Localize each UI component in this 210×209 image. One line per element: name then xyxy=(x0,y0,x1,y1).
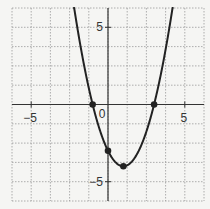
axes xyxy=(12,8,204,201)
x-tick-label: −5 xyxy=(23,111,37,125)
marked-point xyxy=(151,101,158,108)
origin-label: 0 xyxy=(99,107,106,121)
x-tick-label: 5 xyxy=(180,111,187,125)
y-tick-label: −5 xyxy=(89,175,103,189)
marked-point xyxy=(89,101,96,108)
parabola-curve xyxy=(73,8,173,166)
marked-point xyxy=(105,148,112,155)
parabola-chart: −5055−5 xyxy=(0,0,210,209)
y-tick-label: 5 xyxy=(96,20,103,34)
marked-point xyxy=(120,163,127,170)
